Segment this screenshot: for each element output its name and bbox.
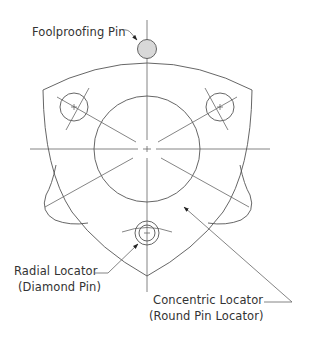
left-bolt-hole <box>60 88 89 130</box>
radial-locator-sublabel: (Diamond Pin) <box>18 280 101 294</box>
locator-diagram: Foolproofing Pin Radial Locator (Diamond… <box>0 0 316 346</box>
concentric-locator-label: Concentric Locator <box>153 293 263 307</box>
foolproofing-pin <box>138 40 157 59</box>
diamond-pin <box>122 221 172 245</box>
concentric-locator-sublabel: (Round Pin Locator) <box>149 309 264 323</box>
foolproofing-pin-label: Foolproofing Pin <box>32 25 126 39</box>
radial-locator-label: Radial Locator <box>14 264 98 278</box>
workpiece-outline <box>43 63 252 276</box>
right-bolt-hole <box>205 88 234 130</box>
leader-lines <box>95 30 292 302</box>
